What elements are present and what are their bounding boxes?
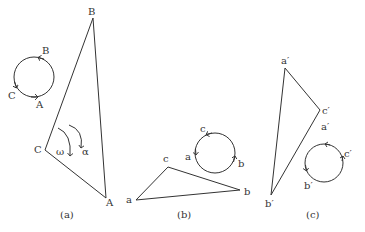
arrow-icon <box>196 149 197 155</box>
circle-label-c: C <box>8 90 16 101</box>
vertex-label-b: b <box>244 186 250 197</box>
triangle-abc <box>45 18 106 198</box>
caption-a: (a) <box>60 209 74 220</box>
triangle-abc-b <box>136 167 240 200</box>
vertex-label-a: a <box>126 194 132 205</box>
vertex-label-a: A <box>105 197 114 208</box>
caption-b: (b) <box>177 209 191 220</box>
alpha-arrow-icon <box>69 125 82 148</box>
circle-label-b: b <box>238 158 244 169</box>
circle-label-b: b′ <box>304 180 313 191</box>
vertex-label-c: C <box>34 144 42 155</box>
omega-label: ω <box>56 146 64 157</box>
alpha-label: α <box>82 146 89 157</box>
vertex-label-a: a′ <box>281 55 290 66</box>
diagram-canvas: B C A B C A ω α (a) a c b c a b (b) a′ c… <box>0 0 365 232</box>
rotation-circle-b <box>195 133 235 173</box>
panel-b: a c b c a b (b) <box>126 123 250 220</box>
caption-c: (c) <box>306 209 320 220</box>
arrow-icon <box>325 144 330 145</box>
panel-a: B C A B C A ω α (a) <box>8 6 114 220</box>
arrow-icon <box>306 165 307 171</box>
panel-c: a′ c′ b′ a′ c′ b′ (c) <box>265 55 353 220</box>
circle-label-a: a <box>185 151 191 162</box>
vertex-label-b: b′ <box>265 198 274 209</box>
circle-label-b: B <box>42 45 49 56</box>
circle-label-c: c′ <box>344 148 353 159</box>
rotation-circle-a <box>14 57 54 97</box>
vertex-label-c: c′ <box>322 105 331 116</box>
circle-label-a: A <box>35 99 44 110</box>
rotation-circle-c <box>305 144 343 182</box>
triangle-abc-c <box>271 68 320 195</box>
circle-label-c: c <box>200 123 206 134</box>
circle-label-a: a′ <box>321 121 330 132</box>
vertex-label-c: c <box>163 153 169 164</box>
vertex-label-b: B <box>88 6 95 17</box>
